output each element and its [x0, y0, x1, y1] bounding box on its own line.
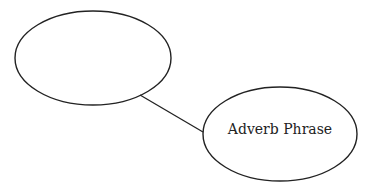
adverb-phrase-label: Adverb Phrase [227, 121, 332, 137]
diagram-canvas: Adverb Phrase [0, 0, 371, 193]
connector-edge [140, 95, 203, 132]
empty-node-ellipse [15, 11, 171, 105]
